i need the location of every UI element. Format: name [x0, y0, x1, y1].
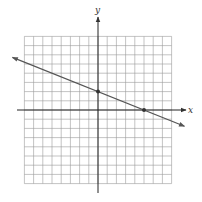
- point-x-intercept: [142, 108, 146, 112]
- coordinate-plane: x y: [0, 0, 202, 202]
- point-y-intercept: [96, 90, 100, 94]
- y-axis-label: y: [94, 5, 101, 15]
- x-axis-label: x: [188, 105, 193, 115]
- axes: x y: [17, 5, 193, 193]
